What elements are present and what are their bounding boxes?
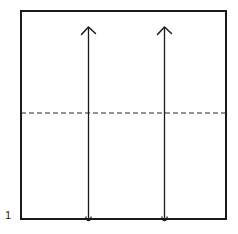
paper-square-outline <box>21 11 226 219</box>
step-number-label: 1 <box>5 209 11 221</box>
diagram-canvas: 1 <box>0 0 238 234</box>
origami-diagram: 1 <box>0 0 238 234</box>
